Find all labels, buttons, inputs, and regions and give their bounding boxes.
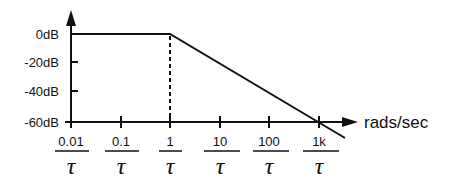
y-axis-arrow-icon <box>66 10 76 26</box>
bode-plot: 0dB -20dB -40dB -60dB rads/sec 0.01 τ 0.… <box>0 0 450 183</box>
svg-text:τ: τ <box>315 153 325 179</box>
svg-text:10: 10 <box>213 134 227 149</box>
svg-text:τ: τ <box>67 153 77 179</box>
svg-text:τ: τ <box>265 153 275 179</box>
x-axis-arrow-icon <box>342 117 358 127</box>
x-axis-label: rads/sec <box>364 113 429 132</box>
x-tick-label: 1k τ <box>303 134 339 179</box>
x-tick-label: 10 τ <box>204 134 240 179</box>
x-tick-label: 0.1 τ <box>105 134 139 179</box>
y-tick-label: 0dB <box>36 27 59 42</box>
svg-text:100: 100 <box>258 134 280 149</box>
y-ticks <box>71 62 78 91</box>
x-tick-label: 100 τ <box>253 134 289 179</box>
y-tick-label: -40dB <box>24 84 59 99</box>
svg-text:0.1: 0.1 <box>112 134 130 149</box>
x-tick-label: 0.01 τ <box>55 134 89 179</box>
svg-text:τ: τ <box>117 153 127 179</box>
y-tick-label: -60dB <box>24 115 59 130</box>
svg-text:0.01: 0.01 <box>58 134 83 149</box>
svg-text:1k: 1k <box>312 134 326 149</box>
svg-text:τ: τ <box>216 153 226 179</box>
svg-text:1: 1 <box>166 134 173 149</box>
y-tick-label: -20dB <box>24 55 59 70</box>
svg-text:τ: τ <box>166 153 176 179</box>
x-tick-label: 1 τ <box>159 134 182 179</box>
